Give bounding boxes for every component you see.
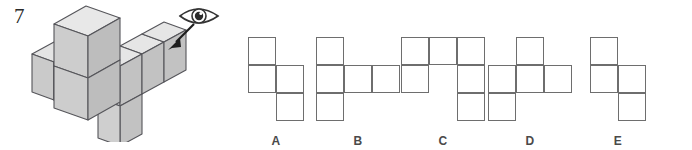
option-cell	[401, 37, 429, 65]
option-cell	[457, 65, 485, 93]
option-cell	[488, 93, 516, 121]
option-cell	[276, 65, 304, 93]
option-b[interactable]: B	[315, 34, 401, 150]
option-cell	[488, 65, 516, 93]
option-cell	[618, 93, 646, 121]
option-cell	[316, 93, 344, 121]
option-e[interactable]: E	[575, 34, 661, 150]
option-a[interactable]: A	[233, 34, 319, 150]
eye-highlight-icon	[199, 12, 202, 15]
option-cell	[590, 37, 618, 65]
option-cell	[401, 65, 429, 93]
option-cell	[590, 65, 618, 93]
eye-icon	[180, 9, 218, 23]
option-e-grid	[575, 34, 661, 124]
option-a-label: A	[233, 134, 319, 148]
arrow-down-left-icon	[168, 24, 194, 50]
option-cell	[372, 65, 400, 93]
option-cell	[544, 65, 572, 93]
option-cell	[248, 37, 276, 65]
option-cell	[457, 93, 485, 121]
option-cell	[316, 65, 344, 93]
option-cell	[516, 37, 544, 65]
option-cell	[457, 37, 485, 65]
option-cell	[316, 37, 344, 65]
option-e-label: E	[575, 134, 661, 148]
option-cell	[344, 65, 372, 93]
answer-options: A B C D E	[215, 34, 692, 150]
option-d-grid	[487, 34, 573, 124]
cube-face-left	[32, 54, 54, 100]
option-cell	[248, 65, 276, 93]
option-cell	[516, 65, 544, 93]
option-c[interactable]: C	[400, 34, 486, 150]
puzzle-container: 7	[0, 0, 692, 150]
option-a-grid	[233, 34, 319, 124]
option-cell	[618, 65, 646, 93]
option-d[interactable]: D	[487, 34, 573, 150]
option-c-label: C	[400, 134, 486, 148]
option-b-label: B	[315, 134, 401, 148]
option-cell	[276, 93, 304, 121]
option-c-grid	[400, 34, 486, 124]
option-d-label: D	[487, 134, 573, 148]
option-b-grid	[315, 34, 401, 124]
option-cell	[429, 37, 457, 65]
question-number: 7	[14, 6, 25, 27]
